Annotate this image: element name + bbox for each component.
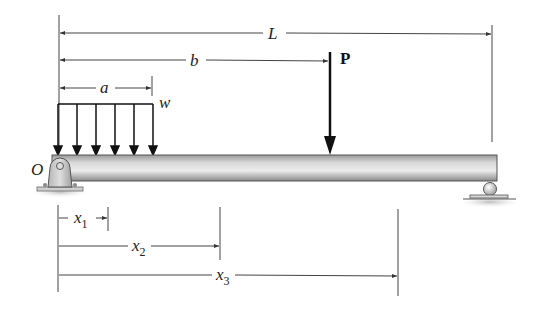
dimension-x3: x3	[59, 265, 397, 288]
dimension-b: b	[60, 51, 328, 70]
svg-text:x3: x3	[215, 265, 230, 288]
label-P: P	[340, 49, 350, 68]
point-load-P: P	[324, 49, 350, 155]
label-a: a	[100, 78, 109, 97]
load-arrows	[54, 104, 157, 155]
beam-diagram: L b a w P	[0, 0, 543, 317]
label-x2-subscript: 2	[140, 245, 146, 259]
label-b: b	[190, 51, 199, 70]
dimension-x2: x2	[59, 236, 219, 259]
label-x1-subscript: 1	[82, 217, 88, 231]
label-O: O	[31, 160, 43, 179]
dimension-L: L	[60, 24, 491, 43]
beam	[52, 155, 497, 181]
dimension-a: a	[60, 78, 151, 97]
svg-text:x1: x1	[73, 208, 88, 231]
svg-text:x2: x2	[131, 236, 146, 259]
label-x3-subscript: 3	[224, 274, 230, 288]
distributed-load-w	[54, 104, 157, 155]
label-L: L	[267, 24, 277, 43]
dimension-x1: x1	[59, 208, 107, 231]
roller-support	[462, 183, 518, 210]
label-w: w	[159, 93, 171, 112]
